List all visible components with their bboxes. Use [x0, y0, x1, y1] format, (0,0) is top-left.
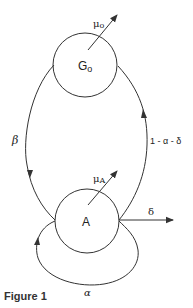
- muA-label: μA: [93, 173, 106, 185]
- mu0-edge: μo: [88, 15, 117, 50]
- flow-diagram: Go μo A μA β 1 - α - δ δ: [0, 0, 193, 308]
- delta-label: δ: [148, 206, 154, 217]
- node-a: A: [55, 189, 119, 253]
- figure-caption: Figure 1: [4, 290, 47, 302]
- return-arrow-icon: [141, 109, 147, 118]
- alpha-label: α: [84, 287, 91, 298]
- alpha-edge: α: [34, 221, 138, 298]
- beta-label: β: [11, 134, 18, 147]
- muA-edge: μA: [88, 171, 117, 205]
- beta-arc: [26, 65, 55, 220]
- alpha-arrow-icon: [34, 237, 40, 245]
- node-g0-label: Go: [78, 59, 92, 74]
- beta-edge: β: [11, 65, 55, 220]
- return-edge: 1 - α - δ: [118, 66, 181, 220]
- node-g0: Go: [53, 33, 117, 97]
- return-label: 1 - α - δ: [150, 136, 181, 146]
- return-arc: [118, 66, 147, 220]
- beta-arrow-icon: [27, 170, 33, 178]
- mu0-label: μo: [93, 18, 105, 30]
- node-a-label: A: [82, 215, 90, 229]
